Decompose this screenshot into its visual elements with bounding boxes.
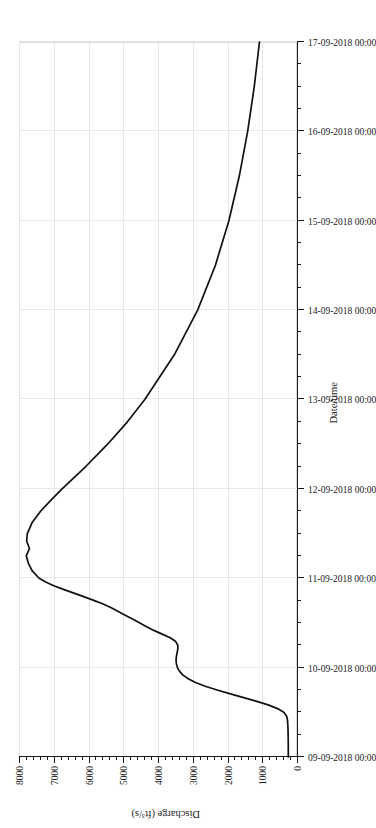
x-tick-major [298, 130, 304, 131]
y-tick-minor [68, 757, 69, 760]
x-tick-minor [298, 600, 301, 601]
x-axis-title: Date/time [328, 382, 339, 423]
x-tick-minor [298, 287, 301, 288]
x-tick-minor [298, 242, 301, 243]
y-tick-minor [102, 757, 103, 760]
y-tick-minor [255, 757, 256, 760]
x-tick-label: 15-09-2018 00:00 [308, 217, 376, 227]
y-tick-major [19, 757, 20, 763]
y-tick-label: 3000 [189, 766, 199, 806]
y-tick-minor [241, 757, 242, 760]
y-tick-minor [234, 757, 235, 760]
x-tick-minor [298, 376, 301, 377]
x-tick-minor [298, 354, 301, 355]
x-tick-major [298, 220, 304, 221]
x-tick-label: 11-09-2018 00:00 [308, 574, 376, 584]
x-tick-label: 13-09-2018 00:00 [308, 396, 376, 406]
x-tick-label: 14-09-2018 00:00 [308, 306, 376, 316]
y-tick-label: 2000 [224, 766, 234, 806]
x-tick-minor [298, 331, 301, 332]
y-tick-label: 7000 [50, 766, 60, 806]
y-tick-major [297, 757, 298, 763]
y-axis-title: Discharge (ft³/s) [131, 809, 200, 820]
y-tick-major [89, 757, 90, 763]
y-tick-major [262, 757, 263, 763]
x-tick-minor [298, 533, 301, 534]
y-tick-minor [95, 757, 96, 760]
x-tick-major [298, 309, 304, 310]
x-tick-major [298, 41, 304, 42]
y-tick-label: 1000 [258, 766, 268, 806]
y-tick-minor [116, 757, 117, 760]
y-tick-major [228, 757, 229, 763]
x-tick-minor [298, 86, 301, 87]
y-tick-minor [75, 757, 76, 760]
x-tick-minor [298, 264, 301, 265]
y-tick-minor [109, 757, 110, 760]
y-tick-major [193, 757, 194, 763]
y-tick-label: 0 [293, 766, 303, 806]
x-tick-minor [298, 466, 301, 467]
y-tick-minor [221, 757, 222, 760]
x-tick-major [298, 399, 304, 400]
x-tick-minor [298, 421, 301, 422]
y-tick-minor [40, 757, 41, 760]
x-tick-major [298, 577, 304, 578]
x-tick-minor [298, 622, 301, 623]
x-tick-minor [298, 108, 301, 109]
y-tick-minor [269, 757, 270, 760]
x-tick-major [298, 667, 304, 668]
x-tick-label: 09-09-2018 00:00 [308, 753, 376, 763]
y-tick-minor [248, 757, 249, 760]
y-tick-minor [186, 757, 187, 760]
y-tick-label: 6000 [85, 766, 95, 806]
x-tick-label: 16-09-2018 00:00 [308, 127, 376, 137]
x-tick-minor [298, 734, 301, 735]
y-tick-label: 8000 [15, 766, 25, 806]
x-tick-minor [298, 689, 301, 690]
y-tick-minor [47, 757, 48, 760]
y-tick-minor [200, 757, 201, 760]
x-tick-minor [298, 197, 301, 198]
x-tick-minor [298, 153, 301, 154]
y-tick-minor [283, 757, 284, 760]
y-tick-minor [33, 757, 34, 760]
x-tick-minor [298, 555, 301, 556]
discharge-series [19, 42, 297, 757]
y-tick-minor [61, 757, 62, 760]
x-tick-major [298, 488, 304, 489]
x-tick-label: 17-09-2018 00:00 [308, 38, 376, 48]
x-tick-label: 12-09-2018 00:00 [308, 485, 376, 495]
y-tick-minor [276, 757, 277, 760]
x-axis-line [297, 41, 298, 757]
y-tick-minor [151, 757, 152, 760]
x-tick-minor [298, 63, 301, 64]
x-tick-label: 10-09-2018 00:00 [308, 664, 376, 674]
y-tick-major [54, 757, 55, 763]
y-tick-minor [144, 757, 145, 760]
x-tick-minor [298, 711, 301, 712]
x-tick-minor [298, 443, 301, 444]
x-tick-major [298, 756, 304, 757]
y-tick-minor [290, 757, 291, 760]
y-tick-minor [214, 757, 215, 760]
y-tick-label: 5000 [119, 766, 129, 806]
y-tick-minor [207, 757, 208, 760]
y-tick-major [123, 757, 124, 763]
y-tick-major [158, 757, 159, 763]
x-tick-minor [298, 510, 301, 511]
x-tick-minor [298, 644, 301, 645]
y-tick-minor [165, 757, 166, 760]
y-tick-minor [130, 757, 131, 760]
x-tick-minor [298, 175, 301, 176]
discharge-line [26, 42, 288, 757]
y-tick-minor [82, 757, 83, 760]
y-tick-label: 4000 [154, 766, 164, 806]
y-tick-minor [179, 757, 180, 760]
y-tick-minor [137, 757, 138, 760]
y-tick-minor [26, 757, 27, 760]
y-tick-minor [172, 757, 173, 760]
